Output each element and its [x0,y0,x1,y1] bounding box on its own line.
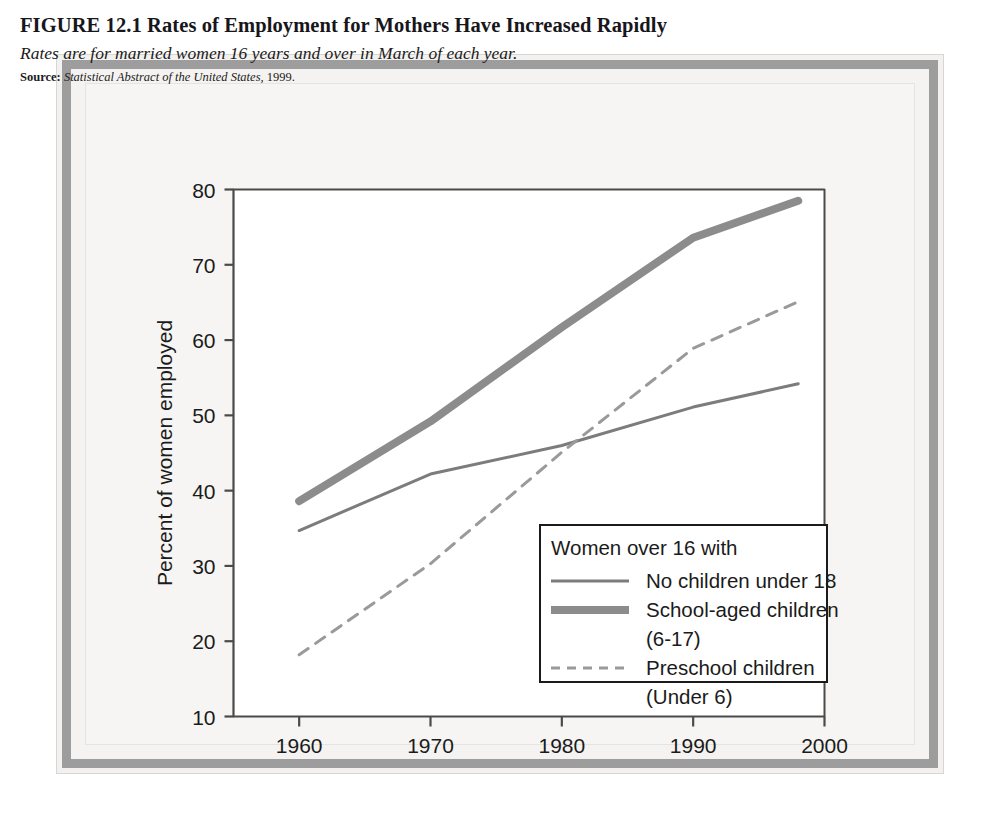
figure-source: Source: Statistical Abstract of the Unit… [20,70,976,85]
source-label: Source: [20,70,61,84]
source-year: 1999. [267,70,295,84]
figure-title: FIGURE 12.1 Rates of Employment for Moth… [20,14,976,38]
figure-card [85,83,915,745]
figure-subtitle: Rates are for married women 16 years and… [20,43,976,63]
figure-caption-block: FIGURE 12.1 Rates of Employment for Moth… [20,14,976,85]
figure-outer-frame [56,54,944,774]
source-title: Statistical Abstract of the United State… [64,70,264,84]
figure-frame-band [62,60,938,768]
